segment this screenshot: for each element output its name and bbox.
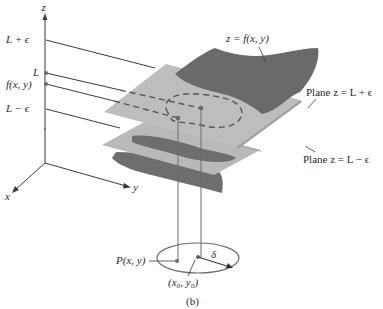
y-axis: y [45, 163, 138, 193]
y-axis-arrow-icon [123, 183, 131, 189]
tick-label-l: L [32, 66, 39, 78]
upper-plane-leader [308, 99, 316, 108]
point-p [175, 259, 179, 263]
z-axis-arrow-icon [43, 13, 48, 20]
x-axis-label: x [4, 190, 10, 202]
lower-plane-leader [305, 146, 315, 152]
center-leader [188, 260, 195, 276]
surface-label: z = f(x, y) [225, 32, 269, 45]
delta-label: δ [211, 248, 217, 260]
point-p-label: P(x, y) [115, 254, 146, 267]
tick-label-f-xy: f(x, y) [6, 78, 32, 91]
upper-plane-label: Plane z = L + ϵ [306, 86, 373, 98]
tick-dot-l [44, 71, 48, 75]
tick-label-l-minus-epsilon: L − ϵ [5, 102, 30, 114]
y-axis-label: y [132, 181, 138, 193]
center-label: (x₀, y₀) [168, 276, 199, 289]
radius-arrow-icon [226, 263, 233, 268]
x-axis: x [4, 163, 45, 202]
limit-definition-diagram: z x y L + ϵ L f(x, y) L − ϵ [0, 0, 383, 309]
z-axis: z [41, 1, 48, 130]
figure-caption: (b) [186, 295, 199, 308]
tick-dot-f-xy [44, 82, 48, 86]
lower-plane-label: Plane z = L − ϵ [303, 153, 370, 165]
guide-line-l-plus-epsilon [46, 40, 155, 68]
tick-label-l-plus-epsilon: L + ϵ [5, 33, 30, 45]
z-axis-label: z [41, 1, 47, 13]
guide-line-l [46, 73, 120, 90]
